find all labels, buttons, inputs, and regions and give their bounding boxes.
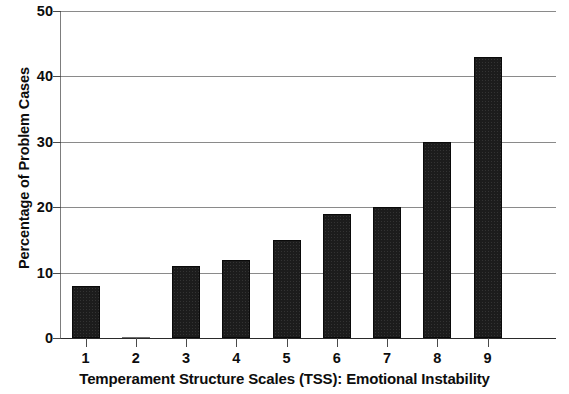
x-tick-mark-4 [236, 338, 237, 347]
bar-5 [273, 240, 301, 338]
bar-4 [222, 260, 250, 338]
y-tick-mark-20 [53, 207, 61, 208]
bar-1 [72, 286, 100, 338]
x-tick-mark-5 [287, 338, 288, 347]
y-tick-mark-10 [53, 273, 61, 274]
x-tick-label-1: 1 [66, 350, 106, 366]
x-tick-label-4: 4 [216, 350, 256, 366]
y-tick-label-10: 10 [19, 265, 53, 281]
y-tick-label-50: 50 [19, 3, 53, 19]
x-tick-mark-9 [488, 338, 489, 347]
y-tick-mark-30 [53, 142, 61, 143]
y-tick-label-30: 30 [19, 134, 53, 150]
y-tick-label-0: 0 [19, 330, 53, 346]
gridline-50 [61, 11, 556, 12]
plot-area [61, 11, 556, 338]
x-tick-label-2: 2 [116, 350, 156, 366]
y-tick-mark-40 [53, 76, 61, 77]
x-tick-mark-2 [136, 338, 137, 347]
x-tick-mark-1 [86, 338, 87, 347]
x-tick-label-9: 9 [468, 350, 508, 366]
x-tick-label-7: 7 [367, 350, 407, 366]
x-tick-mark-8 [437, 338, 438, 347]
bar-3 [172, 266, 200, 338]
x-tick-mark-3 [186, 338, 187, 347]
bar-7 [373, 207, 401, 338]
y-tick-mark-0 [53, 338, 61, 339]
x-axis-title: Temperament Structure Scales (TSS): Emot… [0, 370, 569, 387]
x-tick-label-8: 8 [417, 350, 457, 366]
x-tick-label-3: 3 [166, 350, 206, 366]
x-tick-label-6: 6 [317, 350, 357, 366]
bar-6 [323, 214, 351, 338]
y-tick-label-20: 20 [19, 199, 53, 215]
y-tick-mark-50 [53, 11, 61, 12]
bar-8 [423, 142, 451, 338]
bar-9 [474, 57, 502, 338]
y-tick-label-40: 40 [19, 68, 53, 84]
bar-chart-figure: Percentage of Problem Cases 01020304050 … [0, 0, 569, 394]
x-tick-label-5: 5 [267, 350, 307, 366]
x-tick-mark-6 [337, 338, 338, 347]
x-tick-mark-7 [387, 338, 388, 347]
